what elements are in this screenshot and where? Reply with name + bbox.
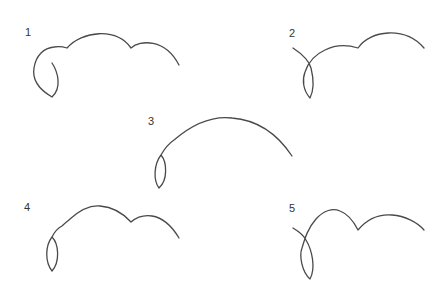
curve-path-2 — [293, 33, 424, 98]
curve-3: 3 — [148, 115, 292, 188]
curve-label-3: 3 — [148, 115, 154, 127]
curve-2: 2 — [289, 27, 424, 98]
curve-1: 1 — [25, 26, 179, 97]
curve-label-2: 2 — [289, 27, 295, 39]
curve-path-1 — [34, 34, 179, 97]
curve-path-3 — [155, 118, 292, 188]
curve-label-5: 5 — [289, 202, 295, 214]
curve-path-4 — [47, 206, 179, 271]
curve-5: 5 — [289, 202, 424, 279]
curve-label-4: 4 — [24, 201, 30, 213]
curves-figure: 1 2 3 4 5 — [0, 0, 446, 299]
curve-path-5 — [293, 210, 424, 279]
curve-4: 4 — [24, 201, 179, 271]
curve-label-1: 1 — [25, 26, 31, 38]
